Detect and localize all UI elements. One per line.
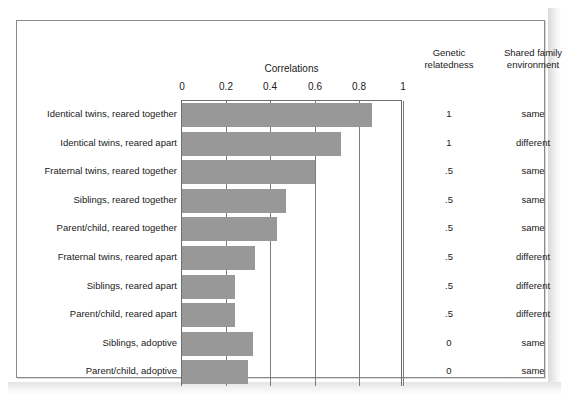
axis-title-correlations: Correlations bbox=[181, 63, 402, 74]
x-axis-tick-label: 0.6 bbox=[308, 81, 322, 92]
column-header-genetic-line2: relatedness bbox=[409, 59, 489, 71]
bar bbox=[182, 103, 372, 127]
column-header-genetic-line1: Genetic bbox=[409, 47, 489, 59]
shared-family-environment-value: same bbox=[487, 365, 567, 377]
bar bbox=[182, 217, 277, 241]
x-axis-tick-label: 0.2 bbox=[219, 81, 233, 92]
column-header-shared-line2: environment bbox=[487, 59, 567, 71]
chart-frame: Genetic relatedness Shared family enviro… bbox=[16, 20, 545, 378]
category-label: Siblings, reared apart bbox=[25, 280, 177, 292]
bar bbox=[182, 275, 235, 299]
genetic-relatedness-value: .5 bbox=[409, 194, 489, 206]
genetic-relatedness-value: 1 bbox=[409, 108, 489, 120]
genetic-relatedness-value: .5 bbox=[409, 222, 489, 234]
x-axis-tick-label: 0.4 bbox=[263, 81, 277, 92]
shared-family-environment-value: same bbox=[487, 194, 567, 206]
category-label: Fraternal twins, reared apart bbox=[25, 251, 177, 263]
bar bbox=[182, 160, 315, 184]
x-axis-tick-label: 1 bbox=[400, 81, 406, 92]
bar bbox=[182, 360, 248, 384]
x-axis-tick-label: 0.8 bbox=[352, 81, 366, 92]
genetic-relatedness-value: .5 bbox=[409, 280, 489, 292]
genetic-relatedness-value: 1 bbox=[409, 137, 489, 149]
category-label-column: Identical twins, reared togetherIdentica… bbox=[25, 100, 177, 386]
shared-family-environment-value: different bbox=[487, 251, 567, 263]
gridline bbox=[403, 101, 404, 386]
genetic-relatedness-value: 0 bbox=[409, 365, 489, 377]
genetic-relatedness-value: .5 bbox=[409, 165, 489, 177]
shared-family-environment-value: same bbox=[487, 222, 567, 234]
plot-area: 00.20.40.60.81 bbox=[181, 100, 402, 386]
bar bbox=[182, 246, 255, 270]
genetic-relatedness-value: 0 bbox=[409, 337, 489, 349]
bar bbox=[182, 189, 286, 213]
category-label: Fraternal twins, reared together bbox=[25, 165, 177, 177]
category-label: Siblings, adoptive bbox=[25, 337, 177, 349]
category-label: Identical twins, reared together bbox=[25, 108, 177, 120]
category-label: Parent/child, reared apart bbox=[25, 308, 177, 320]
x-axis-tick-label: 0 bbox=[179, 81, 185, 92]
gridline bbox=[359, 101, 360, 386]
shared-family-environment-value: same bbox=[487, 337, 567, 349]
column-header-genetic-relatedness: Genetic relatedness bbox=[409, 47, 489, 71]
category-label: Parent/child, adoptive bbox=[25, 365, 177, 377]
category-label: Siblings, reared together bbox=[25, 194, 177, 206]
shared-family-environment-value: same bbox=[487, 165, 567, 177]
category-label: Identical twins, reared apart bbox=[25, 137, 177, 149]
shared-family-environment-column: samedifferentsamesamesamedifferentdiffer… bbox=[487, 100, 567, 386]
genetic-relatedness-value: .5 bbox=[409, 308, 489, 320]
column-header-shared-family-environment: Shared family environment bbox=[487, 47, 567, 71]
shared-family-environment-value: different bbox=[487, 280, 567, 292]
shared-family-environment-value: different bbox=[487, 137, 567, 149]
shared-family-environment-value: same bbox=[487, 108, 567, 120]
bar bbox=[182, 332, 253, 356]
genetic-relatedness-column: 11.5.5.5.5.5.500 bbox=[409, 100, 489, 386]
category-label: Parent/child, reared together bbox=[25, 222, 177, 234]
bar bbox=[182, 303, 235, 327]
column-header-shared-line1: Shared family bbox=[487, 47, 567, 59]
genetic-relatedness-value: .5 bbox=[409, 251, 489, 263]
shared-family-environment-value: different bbox=[487, 308, 567, 320]
bar bbox=[182, 132, 341, 156]
